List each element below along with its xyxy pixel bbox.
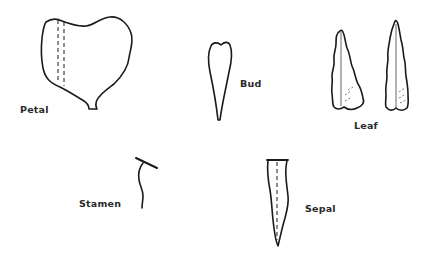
- petal-label: Petal: [20, 104, 49, 115]
- stamen-label: Stamen: [79, 198, 121, 209]
- bud-shape: [209, 42, 232, 120]
- sepal-label: Sepal: [305, 203, 336, 214]
- petal-shape: [41, 17, 132, 109]
- leaf-shape-left: [332, 30, 364, 109]
- stamen-shape: [136, 158, 157, 208]
- sepal-shape: [267, 160, 288, 246]
- bud-label: Bud: [240, 78, 261, 89]
- leaf-label: Leaf: [354, 120, 378, 131]
- leaf-shape-right: [386, 21, 409, 111]
- diagram-canvas: [0, 0, 430, 263]
